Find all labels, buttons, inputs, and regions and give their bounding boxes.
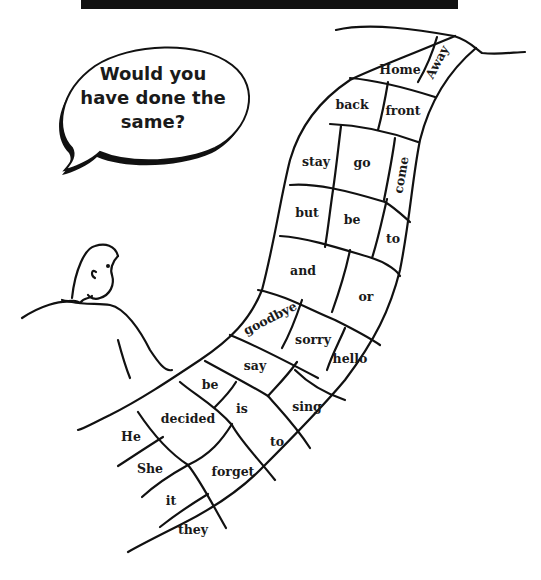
worksheet-illustration: Would you have done the same? AwayHomeba… — [0, 0, 541, 580]
word-square-or[interactable]: or — [359, 289, 374, 304]
word-square-and[interactable]: and — [290, 263, 316, 278]
word-square-go[interactable]: go — [353, 155, 370, 170]
word-square-but[interactable]: but — [295, 205, 319, 220]
word-square-be[interactable]: be — [202, 377, 219, 392]
word-square-be[interactable]: be — [344, 212, 361, 227]
word-square-back[interactable]: back — [335, 97, 368, 112]
bubble-line-2: have done the — [78, 86, 228, 110]
speech-bubble-text: Would you have done the same? — [78, 62, 228, 134]
word-square-home[interactable]: Home — [379, 62, 420, 77]
word-square-say[interactable]: say — [244, 358, 266, 373]
word-square-sorry[interactable]: sorry — [295, 332, 331, 347]
word-square-is[interactable]: is — [236, 401, 248, 416]
word-square-it[interactable]: it — [166, 493, 177, 508]
boy-character-icon — [22, 245, 172, 378]
word-square-he[interactable]: He — [121, 429, 141, 444]
word-square-hello[interactable]: hello — [333, 351, 368, 366]
word-square-forget[interactable]: forget — [212, 464, 255, 479]
word-square-to[interactable]: to — [386, 231, 400, 246]
word-square-front[interactable]: front — [385, 103, 420, 118]
word-square-decided[interactable]: decided — [161, 411, 216, 426]
word-square-she[interactable]: She — [137, 461, 163, 476]
word-square-sing[interactable]: sing — [292, 399, 322, 414]
bubble-line-1: Would you — [78, 62, 228, 86]
word-square-to[interactable]: to — [270, 434, 284, 449]
word-square-they[interactable]: they — [178, 522, 208, 537]
bubble-line-3: same? — [78, 110, 228, 134]
word-square-stay[interactable]: stay — [302, 154, 330, 169]
